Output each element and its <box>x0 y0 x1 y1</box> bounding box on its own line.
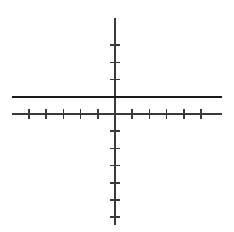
coordinate-plane-figure <box>0 0 234 232</box>
coordinate-plane-svg <box>0 0 234 232</box>
figure-background <box>0 0 234 232</box>
screenshot-root: not shown by the <box>0 0 234 232</box>
